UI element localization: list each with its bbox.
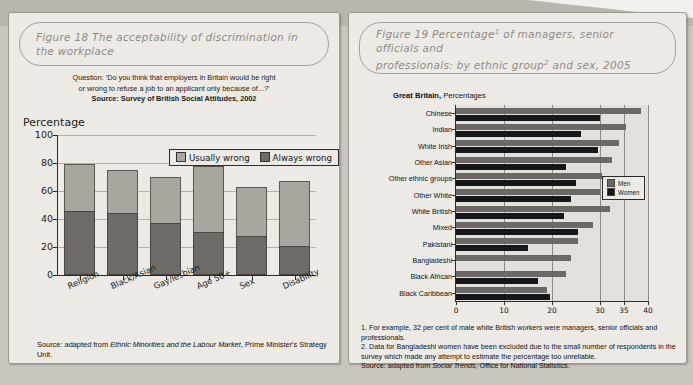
bar-women[interactable] (456, 278, 538, 284)
y-axis-label: Other White (414, 191, 452, 200)
bar-women[interactable] (456, 131, 581, 137)
bar-segment-always-wrong[interactable] (107, 213, 138, 275)
y-axis-label: Chinese (426, 109, 452, 118)
y-axis-label: Indian (432, 125, 452, 134)
y-axis-label: White Irish (418, 142, 452, 151)
figure-19-title-line-1: Figure 19 Percentage1 of managers, senio… (376, 28, 614, 54)
figure-19-source-note: Source: adapted from Social Trends, Offi… (361, 361, 677, 371)
figure-19-notes: 1. For example, 32 per cent of male whit… (361, 323, 677, 371)
bar-segment-always-wrong[interactable] (64, 211, 95, 275)
stacked-bar[interactable] (193, 166, 224, 275)
bar-row[interactable]: Indian (456, 121, 648, 137)
stacked-bar[interactable] (150, 177, 181, 275)
bar-row[interactable]: Pakistani (456, 236, 648, 252)
legend-swatch-usually-wrong (176, 152, 186, 162)
source-italic-title: Ethnic Minorities and the Labour Market (110, 340, 241, 349)
figure-18-source-note: Source: adapted from Ethnic Minorities a… (37, 340, 327, 360)
y-tick-label: 80 (41, 157, 53, 168)
y-axis-label: Black Caribbean (399, 289, 452, 298)
bar-row[interactable]: Black Caribbean (456, 285, 648, 301)
bar-women[interactable] (456, 213, 564, 219)
bar-men[interactable] (456, 222, 593, 228)
x-tick-label: 10 (499, 306, 508, 315)
x-tick-mark (648, 301, 649, 305)
bar-men[interactable] (456, 108, 641, 114)
bar-segment-usually-wrong[interactable] (107, 170, 138, 213)
bar-men[interactable] (456, 173, 602, 179)
y-tick-mark (53, 275, 58, 276)
y-tick-label: 20 (41, 241, 53, 252)
bar-men[interactable] (456, 206, 610, 212)
bar-segment-usually-wrong[interactable] (150, 177, 181, 223)
bar-women[interactable] (456, 245, 528, 251)
y-tick-mark (452, 227, 456, 228)
figure-18-legend: Usually wrong Always wrong (169, 149, 339, 166)
source-prefix: Source: adapted from (37, 340, 110, 349)
bar-row[interactable]: Other Asian (456, 154, 648, 170)
bar-row[interactable]: Chinese (456, 105, 648, 121)
bar-segment-usually-wrong[interactable] (193, 166, 224, 232)
y-tick-mark (452, 113, 456, 114)
source-prefix: Source: adapted from (361, 361, 432, 370)
region-name: Great Britain, (393, 91, 441, 100)
legend-swatch-women (607, 188, 615, 196)
stacked-bar[interactable] (107, 170, 138, 275)
bar-row[interactable]: White Irish (456, 138, 648, 154)
bar-row[interactable]: Bangladeshi (456, 252, 648, 268)
bar-women[interactable] (456, 180, 576, 186)
y-tick-mark (452, 276, 456, 277)
y-tick-mark (452, 129, 456, 130)
bar-row[interactable]: Black African (456, 268, 648, 284)
bar-men[interactable] (456, 124, 626, 130)
bar-women[interactable] (456, 294, 550, 300)
bar-women[interactable] (456, 115, 600, 121)
bar-women[interactable] (456, 229, 578, 235)
y-axis-label: White British (412, 207, 452, 216)
bar-men[interactable] (456, 140, 619, 146)
bar-men[interactable] (456, 189, 600, 195)
stacked-bar[interactable] (236, 187, 267, 275)
bar-segment-usually-wrong[interactable] (279, 181, 310, 245)
y-axis-label: Bangladeshi (412, 256, 452, 265)
figure-19-panel: Figure 19 Percentage1 of managers, senio… (348, 12, 687, 364)
y-axis-label: Other Asian (414, 158, 452, 167)
bar-women[interactable] (456, 164, 566, 170)
bar-segment-usually-wrong[interactable] (236, 187, 267, 236)
footnote-2: 2. Data for Bangladeshi women have been … (361, 342, 677, 361)
footnote-1: 1. For example, 32 per cent of male whit… (361, 323, 677, 342)
y-axis-label: Black African (410, 272, 452, 281)
figure-18-title-box: Figure 18 The acceptability of discrimin… (19, 22, 329, 66)
bar-row[interactable]: White British (456, 203, 648, 219)
figure-18-question-block: Question: 'Do you think that employers i… (9, 73, 339, 105)
y-tick-label: 60 (41, 185, 53, 196)
bar-men[interactable] (456, 255, 571, 261)
bar-men[interactable] (456, 271, 566, 277)
bar-column[interactable] (101, 135, 144, 275)
bar-men[interactable] (456, 157, 612, 163)
x-tick-mark (624, 301, 625, 305)
legend-label-women: Women (618, 189, 640, 196)
figure-19-region-label: Great Britain, Percentages (393, 91, 486, 100)
bar-men[interactable] (456, 287, 547, 293)
question-line-2: or wrong to refuse a job to an applicant… (9, 84, 339, 95)
y-tick-mark (452, 293, 456, 294)
stacked-bar[interactable] (64, 164, 95, 275)
bar-segment-usually-wrong[interactable] (64, 164, 95, 210)
bar-women[interactable] (456, 196, 571, 202)
bar-women[interactable] (456, 147, 598, 153)
region-units: Percentages (441, 91, 486, 100)
x-axis-label: Sex (238, 276, 256, 291)
legend-item-men: Men (607, 179, 640, 188)
y-tick-mark (452, 260, 456, 261)
bar-row[interactable]: Mixed (456, 219, 648, 235)
bar-segment-always-wrong[interactable] (236, 236, 267, 275)
figure-19-title-line-2: professionals: by ethnic group2 and sex,… (376, 59, 631, 71)
legend-swatch-men (607, 179, 615, 187)
legend-swatch-always-wrong (260, 152, 270, 162)
figure-18-title: Figure 18 The acceptability of discrimin… (36, 30, 312, 58)
legend-label-always-wrong: Always wrong (273, 153, 332, 163)
bar-column[interactable] (58, 135, 101, 275)
bar-men[interactable] (456, 238, 578, 244)
y-tick-label: 100 (35, 129, 53, 140)
stacked-bar[interactable] (279, 181, 310, 275)
